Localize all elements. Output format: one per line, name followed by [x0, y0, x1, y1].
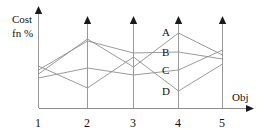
- series-label-d: D: [162, 85, 170, 97]
- x-tick-label-2: 2: [84, 116, 90, 130]
- y-axis-label-line2: fn %: [12, 27, 33, 39]
- axis-arrow-3: [130, 16, 137, 24]
- x-tick-label-5: 5: [219, 116, 225, 130]
- x-tick-label-4: 4: [175, 116, 181, 130]
- series-group: [39, 33, 223, 91]
- parallel-coordinates-chart: Cost fn % Obj A B C D 1 2 3 4 5: [0, 0, 270, 133]
- x-tick-label-1: 1: [35, 116, 41, 130]
- series-label-a: A: [162, 26, 170, 38]
- axis-group: [35, 6, 226, 108]
- chart-canvas: Cost fn % Obj A B C D 1 2 3 4 5: [0, 0, 270, 133]
- axis-arrow-1: [35, 6, 42, 14]
- y-axis-label-line1: Cost: [12, 13, 32, 25]
- axis-arrow-4: [175, 16, 182, 24]
- series-label-c: C: [162, 64, 169, 76]
- baseline-group: [39, 105, 255, 112]
- axis-arrow-2: [84, 16, 91, 24]
- x-axis-label: Obj: [232, 91, 249, 103]
- axis-arrow-5: [219, 16, 226, 24]
- x-tick-label-3: 3: [130, 116, 136, 130]
- series-label-b: B: [162, 46, 169, 58]
- x-axis-arrow: [246, 105, 254, 112]
